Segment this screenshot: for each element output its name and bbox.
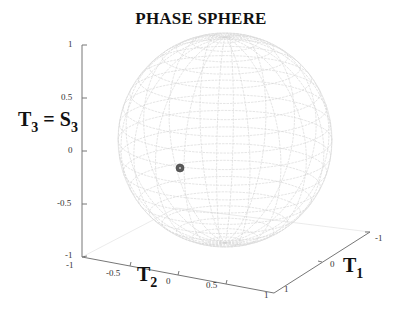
t1-axis-label: T1 [343,254,363,282]
z-axis-label: T3 = S3 [18,108,78,136]
t1-tick-label: 1 [284,284,289,294]
data-points [176,164,184,172]
floor-backplane-lines [82,208,370,257]
t1-tick-label: -1 [375,233,383,243]
t2-tick-label: -0.5 [106,268,120,278]
t2-tick-label: 1 [264,290,269,300]
phase-sphere-plot [0,0,402,309]
axes [82,45,370,293]
z-tick-label: 0.5 [61,92,72,102]
t2-axis-label: T2 [137,263,157,291]
t2-tick-label: 0.5 [206,280,217,290]
z-tick-label: -0.5 [57,198,71,208]
t2-tick-label: 0 [166,276,171,286]
z-tick-label: 0 [68,145,73,155]
chart-title: PHASE SPHERE [0,9,402,29]
t2-tick-label: -1 [66,260,74,270]
z-tick-label: 1 [68,39,73,49]
t1-tick-label: 0 [330,259,335,269]
sphere-wireframe [118,33,332,247]
z-tick-label: -1 [65,250,73,260]
